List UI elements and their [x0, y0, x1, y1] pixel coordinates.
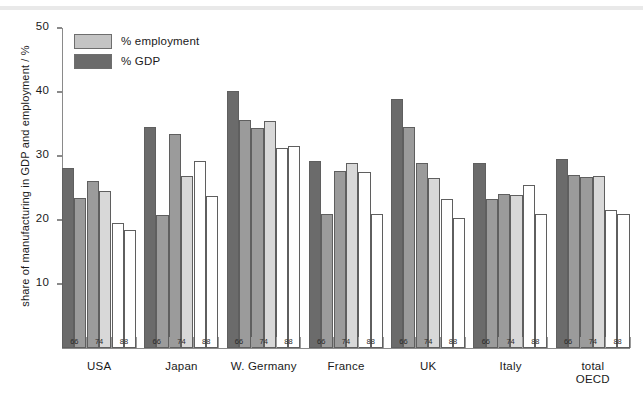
bar-gdp-italy-66 — [473, 163, 485, 348]
bar-gdp-france-88 — [358, 172, 370, 348]
bar-employment-total-oecd-74 — [593, 176, 605, 348]
bar-employment-japan-66 — [156, 215, 168, 348]
bar-employment-w--germany-88 — [288, 146, 300, 348]
year-label-w--germany-74: 74 — [251, 337, 276, 348]
bar-gdp-france-66 — [309, 161, 321, 348]
slot-separator — [333, 337, 334, 348]
year-label-w--germany-66: 66 — [227, 337, 252, 348]
slot-separator — [630, 337, 631, 348]
slot-separator — [136, 337, 137, 348]
bar-employment-japan-74 — [181, 176, 193, 348]
bar-chart: 1020304050 share of manufacturing in GDP… — [0, 0, 643, 410]
year-label-japan-74: 74 — [169, 337, 194, 348]
bar-employment-japan-88 — [206, 196, 218, 348]
year-label-w--germany-88: 88 — [276, 337, 301, 348]
group-label-usa: USA — [62, 360, 136, 373]
year-label-total-oecd-74: 74 — [580, 337, 605, 348]
year-label-france-66: 66 — [309, 337, 334, 348]
slot-separator — [276, 337, 277, 348]
year-label-total-oecd-66: 66 — [556, 337, 581, 348]
slot-separator — [169, 337, 170, 348]
slot-separator — [86, 337, 87, 348]
bar-gdp-france-74 — [334, 171, 346, 348]
bar-employment-uk-66 — [403, 127, 415, 348]
bar-employment-w--germany-66 — [239, 120, 251, 348]
bar-employment-uk-74 — [428, 178, 440, 348]
bar-gdp-w--germany-66 — [227, 91, 239, 348]
slot-separator — [547, 337, 548, 348]
bar-gdp-total-oecd-88 — [605, 210, 617, 348]
bar-employment-usa-66 — [74, 198, 86, 348]
group-label-italy: Italy — [473, 360, 547, 373]
year-label-total-oecd-88: 88 — [605, 337, 630, 348]
slot-separator — [415, 337, 416, 348]
slot-separator — [522, 337, 523, 348]
year-label-italy-66: 66 — [473, 337, 498, 348]
year-label-usa-74: 74 — [87, 337, 112, 348]
bar-gdp-w--germany-88 — [276, 148, 288, 348]
group-labels: USAJapanW. GermanyFranceUKItalytotalOECD — [62, 360, 630, 402]
year-label-usa-88: 88 — [112, 337, 137, 348]
group-label-france: France — [309, 360, 383, 373]
slot-separator — [218, 337, 219, 348]
bar-gdp-usa-74 — [87, 181, 99, 348]
bar-employment-uk-88 — [453, 218, 465, 348]
group-label-total: totalOECD — [556, 360, 630, 386]
bar-gdp-japan-66 — [144, 127, 156, 348]
bars-layer: 6674886674886674886674886674886674886674… — [62, 28, 630, 348]
year-label-france-88: 88 — [358, 337, 383, 348]
bar-gdp-italy-88 — [523, 185, 535, 348]
year-label-uk-66: 66 — [391, 337, 416, 348]
bar-employment-italy-88 — [535, 214, 547, 348]
group-label-w--germany: W. Germany — [227, 360, 301, 373]
year-label-usa-66: 66 — [62, 337, 87, 348]
year-label-italy-88: 88 — [523, 337, 548, 348]
year-label-france-74: 74 — [334, 337, 359, 348]
group-label-line2: OECD — [556, 373, 630, 386]
bar-employment-italy-74 — [510, 195, 522, 348]
year-label-japan-66: 66 — [144, 337, 169, 348]
bar-employment-total-oecd-66 — [568, 175, 580, 348]
bar-employment-usa-88 — [124, 230, 136, 348]
year-label-uk-88: 88 — [441, 337, 466, 348]
bar-gdp-italy-74 — [498, 194, 510, 348]
bar-gdp-w--germany-74 — [251, 128, 263, 348]
year-label-italy-74: 74 — [498, 337, 523, 348]
slot-separator — [465, 337, 466, 348]
slot-separator — [498, 337, 499, 348]
group-label-uk: UK — [391, 360, 465, 373]
group-label-japan: Japan — [144, 360, 218, 373]
slot-separator — [251, 337, 252, 348]
bar-employment-total-oecd-88 — [617, 214, 629, 348]
year-label-uk-74: 74 — [416, 337, 441, 348]
year-label-japan-88: 88 — [194, 337, 219, 348]
bar-employment-w--germany-74 — [264, 121, 276, 348]
slot-separator — [300, 337, 301, 348]
bar-employment-france-66 — [321, 214, 333, 348]
slot-separator — [111, 337, 112, 348]
bar-gdp-usa-88 — [112, 223, 124, 348]
bar-employment-france-74 — [346, 163, 358, 348]
bar-gdp-japan-74 — [169, 134, 181, 348]
bar-gdp-usa-66 — [62, 168, 74, 348]
bar-gdp-uk-88 — [441, 199, 453, 348]
slot-separator — [605, 337, 606, 348]
bar-employment-italy-66 — [486, 199, 498, 348]
bar-gdp-japan-88 — [194, 161, 206, 348]
slot-separator — [193, 337, 194, 348]
bar-gdp-total-oecd-66 — [556, 159, 568, 348]
bar-employment-france-88 — [371, 214, 383, 348]
slot-separator — [580, 337, 581, 348]
slot-separator — [440, 337, 441, 348]
x-axis-line — [62, 348, 630, 349]
slot-separator — [358, 337, 359, 348]
y-axis-title: share of manufacturing in GDP and employ… — [19, 11, 31, 341]
bar-gdp-total-oecd-74 — [580, 177, 592, 348]
bar-employment-usa-74 — [99, 191, 111, 348]
bar-gdp-uk-74 — [416, 163, 428, 348]
bar-gdp-uk-66 — [391, 99, 403, 348]
slot-separator — [383, 337, 384, 348]
